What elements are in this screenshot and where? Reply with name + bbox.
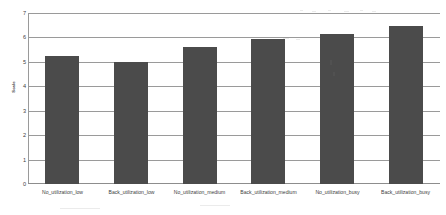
plot-area [28,13,440,184]
bar [320,34,354,184]
y-axis-tick-label: 1 [16,157,26,163]
bar [389,26,423,184]
y-axis-tick-label: 2 [16,132,26,138]
y-axis-tick-labels: 01234567 [13,0,26,215]
x-axis-tick-label: No_utilization_medium [165,188,234,196]
x-axis-tick-label: Back_utilization_busy [371,188,440,196]
x-axis-tick-label: Back_utilization_low [97,188,166,196]
y-axis-tick-label: 0 [16,181,26,187]
y-axis-tick-label: 6 [16,34,26,40]
bar-series [28,13,440,184]
y-axis-tick-label: 7 [16,10,26,16]
x-axis-tick-label: Back_utilization_medium [234,188,303,196]
x-axis-tick-label: No_utilization_busy [303,188,372,196]
y-axis-tick-label: 4 [16,83,26,89]
x-axis-tick-labels: No_utilization_lowBack_utilization_lowNo… [28,188,440,204]
bar [114,62,148,184]
bar [45,56,79,184]
bar-chart: Scale 01234567 No_utilization_lowBack_ut… [0,0,446,215]
bar [183,47,217,184]
y-axis-tick-label: 3 [16,108,26,114]
x-axis-tick-label: No_utilization_low [28,188,97,196]
bar [251,39,285,184]
y-axis-tick-label: 5 [16,59,26,65]
